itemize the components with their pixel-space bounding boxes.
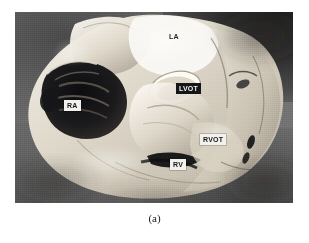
photo-grain-texture	[15, 12, 293, 203]
figure-panel: LA LVOT RA RVOT RV (a)	[0, 0, 309, 243]
specimen-photograph	[15, 12, 293, 203]
label-la: LA	[166, 31, 182, 42]
figure-caption: (a)	[0, 212, 309, 224]
label-rv: RV	[170, 159, 186, 170]
label-ra: RA	[64, 100, 81, 111]
label-lvot: LVOT	[176, 83, 201, 94]
label-rvot: RVOT	[200, 134, 226, 145]
